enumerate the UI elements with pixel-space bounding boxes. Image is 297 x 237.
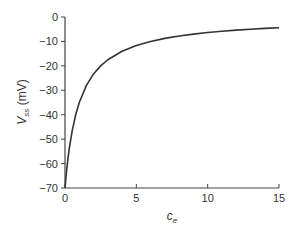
x-tick-label: 0 [62,192,68,204]
y-tick-label: −70 [39,182,58,194]
y-tick-label: −20 [39,60,58,72]
y-tick-label: −50 [39,133,58,145]
y-tick-label: −40 [39,109,58,121]
y-axis-label: Vss (mV) [15,79,31,124]
x-axis-label: ce [167,209,178,225]
chart: 0−10−20−30−40−50−60−70 051015 Vss (mV) c… [0,0,297,237]
x-axis: 051015 [62,184,285,204]
x-tick-label: 5 [133,192,139,204]
y-tick-label: 0 [52,11,58,23]
y-tick-label: −60 [39,158,58,170]
y-axis: 0−10−20−30−40−50−60−70 [39,11,65,194]
plot-area [65,28,279,188]
y-tick-label: −30 [39,84,58,96]
series-line [65,28,279,188]
x-tick-label: 15 [273,192,285,204]
y-tick-label: −10 [39,35,58,47]
x-tick-label: 10 [202,192,214,204]
